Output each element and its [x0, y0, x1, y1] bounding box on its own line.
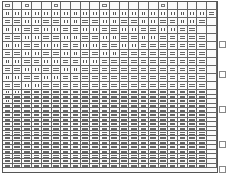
grid-cell	[42, 104, 52, 108]
grid-cell	[13, 74, 23, 81]
grid-cell	[149, 2, 159, 9]
grid-cell	[100, 141, 110, 145]
grid-cell	[139, 95, 149, 99]
grid-cell	[129, 131, 139, 135]
grid-cell	[197, 10, 207, 17]
grid-cell	[3, 90, 13, 94]
grid-cell	[22, 58, 32, 65]
grid-cell	[90, 104, 100, 108]
grid-cell	[120, 42, 130, 49]
grid-cell	[13, 66, 23, 73]
grid-cell	[168, 136, 178, 140]
grid-cell	[129, 150, 139, 154]
grid-cell	[71, 34, 81, 41]
grid-cell	[149, 90, 159, 94]
grid-cell	[61, 42, 71, 49]
grid-cell	[207, 131, 217, 135]
grid-cell	[149, 58, 159, 65]
grid-cell	[207, 18, 217, 25]
grid-cell	[100, 122, 110, 126]
grid-cell	[188, 90, 198, 94]
grid-cell	[13, 26, 23, 33]
grid-cell	[120, 50, 130, 57]
grid-cell	[120, 2, 130, 9]
grid-cell	[159, 159, 169, 163]
grid-cell	[81, 10, 91, 17]
grid-cell	[81, 150, 91, 154]
grid-cell	[120, 18, 130, 25]
grid-cell	[52, 42, 62, 49]
grid-cell	[61, 145, 71, 149]
grid-cell	[197, 127, 207, 131]
grid-cell	[90, 113, 100, 117]
grid-cell	[139, 58, 149, 65]
grid-row	[3, 164, 217, 169]
grid-cell	[32, 66, 42, 73]
grid-cell	[110, 108, 120, 112]
grid-cell	[13, 118, 23, 122]
grid-cell	[90, 10, 100, 17]
grid-cell	[32, 113, 42, 117]
grid-cell	[13, 10, 23, 17]
grid-cell	[207, 2, 217, 9]
grid-cell	[52, 150, 62, 154]
grid-cell	[42, 127, 52, 131]
grid-cell	[3, 108, 13, 112]
grid-cell	[61, 150, 71, 154]
grid-cell	[3, 18, 13, 25]
grid-cell	[100, 127, 110, 131]
grid-cell	[159, 42, 169, 49]
grid-cell	[129, 122, 139, 126]
grid-cell	[61, 154, 71, 158]
grid-cell	[149, 26, 159, 33]
grid-row	[3, 82, 217, 90]
grid-cell	[159, 90, 169, 94]
grid-cell	[159, 104, 169, 108]
grid-cell	[100, 150, 110, 154]
grid-cell	[42, 82, 52, 89]
grid-cell	[129, 99, 139, 103]
grid-cell	[129, 104, 139, 108]
grid-cell	[22, 122, 32, 126]
grid-cell	[110, 104, 120, 108]
grid-cell	[168, 108, 178, 112]
grid-cell	[139, 122, 149, 126]
grid-cell	[61, 131, 71, 135]
grid-cell	[197, 50, 207, 57]
grid-cell	[42, 90, 52, 94]
grid-cell	[100, 90, 110, 94]
grid-cell	[22, 34, 32, 41]
grid-cell	[3, 122, 13, 126]
grid-cell	[42, 145, 52, 149]
grid-cell	[42, 58, 52, 65]
grid-cell	[42, 136, 52, 140]
grid-cell	[52, 95, 62, 99]
grid-cell	[139, 154, 149, 158]
grid-cell	[139, 136, 149, 140]
grid-cell	[52, 154, 62, 158]
grid-cell	[139, 145, 149, 149]
grid-cell	[159, 18, 169, 25]
grid-cell	[207, 34, 217, 41]
grid-cell	[197, 131, 207, 135]
grid-cell	[22, 42, 32, 49]
grid-cell	[149, 113, 159, 117]
grid-cell	[139, 118, 149, 122]
grid-cell	[178, 164, 188, 168]
grid-cell	[81, 42, 91, 49]
grid-cell	[149, 127, 159, 131]
grid-cell	[110, 50, 120, 57]
grid-cell	[129, 58, 139, 65]
grid-cell	[178, 159, 188, 163]
grid-cell	[71, 113, 81, 117]
grid-cell	[207, 113, 217, 117]
grid-cell	[81, 145, 91, 149]
grid-cell	[100, 10, 110, 17]
grid-cell	[13, 104, 23, 108]
grid-cell	[81, 136, 91, 140]
grid-cell	[71, 99, 81, 103]
grid-cell	[13, 131, 23, 135]
grid-cell	[159, 2, 169, 9]
grid-cell	[110, 164, 120, 168]
grid-cell	[71, 122, 81, 126]
